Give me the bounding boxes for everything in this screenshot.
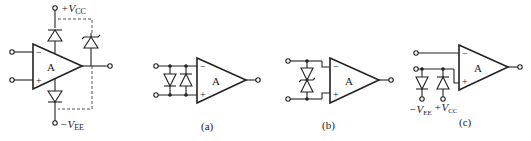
bidirectional-zener [299,61,315,99]
output-terminal [518,65,522,69]
main-circuit: A − + +VCC −VEE [10,2,112,132]
noninverting-sign: + [200,89,206,100]
input-terminal-inverting [286,59,290,63]
vcc-label: +VCC [434,101,458,115]
amp-label: A [212,75,220,87]
zener-diode [82,33,100,66]
circuit-b: A − + (b) [286,58,393,132]
vee-terminal [53,121,57,125]
vee-label: −VEE [409,103,432,117]
output-terminal [389,78,393,82]
input-terminal-inverting [414,51,418,55]
input-terminal-inverting [10,50,14,54]
caption: (b) [322,119,335,132]
output-terminal [256,78,260,82]
inverting-sign: − [333,61,339,72]
inverting-sign: − [200,61,206,72]
circuit-a: A − + (a) [154,58,260,133]
wire [322,93,330,99]
vee-terminal [420,97,424,101]
inverting-sign: − [36,47,42,58]
output-terminal [108,64,112,68]
diode-up [180,66,192,95]
noninverting-sign: + [462,76,468,87]
circuit-c: A − + −VEE +VCC (c) [409,45,522,129]
diode-down [164,66,176,95]
amp-label: A [474,62,482,74]
vcc-label: +VCC [61,2,86,16]
wire [322,61,330,67]
dashed-connection-top [58,19,92,33]
vee-label: −VEE [60,118,84,132]
amp-label: A [345,75,353,87]
noninverting-sign: + [333,89,339,100]
diode-vee [48,91,62,102]
vcc-terminal [53,6,57,10]
input-terminal-noninverting [10,78,14,82]
caption: (a) [201,120,214,133]
noninverting-sign: + [36,75,42,86]
caption: (c) [459,116,472,129]
diode-vcc [48,30,62,41]
inverting-sign: − [462,48,468,59]
input-terminal-noninverting [286,97,290,101]
diode-vcc [437,69,449,97]
diode-vee [416,69,428,97]
input-terminal-inverting [154,64,158,68]
opamp-protection-diagram: A − + +VCC −VEE [0,0,531,141]
input-terminal-noninverting [414,67,418,71]
input-terminal-noninverting [154,93,158,97]
amp-label: A [47,61,55,73]
